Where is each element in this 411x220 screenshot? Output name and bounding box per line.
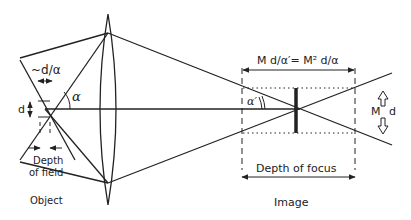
alpha-label: α: [72, 90, 81, 103]
object-label: Object: [30, 196, 63, 206]
image-height-m: M: [371, 106, 381, 117]
md-arrow-up: [378, 91, 388, 106]
depth-of-focus-label: Depth of focus: [256, 163, 336, 174]
object-height-label: d: [18, 104, 25, 115]
ray-upper-object: [20, 33, 108, 58]
alpha-prime-label: α′: [247, 96, 257, 107]
depth-of-field-label-1: Depth: [33, 156, 63, 166]
image-label: Image: [274, 197, 308, 208]
optics-diagram: [0, 0, 411, 220]
md-arrow-down: [378, 118, 388, 134]
object-width-label: ~d/α: [31, 64, 61, 76]
alpha-prime-arc: [259, 97, 262, 109]
depth-of-field-label-2: of field: [29, 168, 63, 178]
image-width-formula: M d/α′= M² d/α: [257, 55, 338, 66]
image-height-d: d: [389, 106, 396, 117]
